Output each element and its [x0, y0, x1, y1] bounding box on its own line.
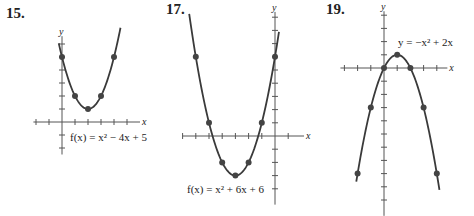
- data-point: [259, 120, 265, 126]
- data-point: [246, 159, 252, 165]
- x-axis-label: x: [305, 130, 311, 141]
- data-point: [85, 106, 91, 112]
- data-point: [407, 65, 413, 71]
- graph-15: xyf(x) = x² − 4x + 5: [33, 26, 147, 154]
- data-point: [272, 54, 278, 60]
- data-point: [381, 65, 387, 71]
- data-point: [421, 105, 427, 111]
- graph-17: xyf(x) = x² + 6x + 6: [183, 2, 311, 205]
- y-axis-label: y: [271, 2, 277, 13]
- parabola-curve: [189, 14, 279, 176]
- parabola-plots: xyf(x) = x² − 4x + 5 xyf(x) = x² + 6x + …: [0, 0, 474, 216]
- data-point: [72, 93, 78, 99]
- data-point: [434, 171, 440, 177]
- parabola-curve: [356, 55, 439, 190]
- equation-label: f(x) = x² − 4x + 5: [70, 131, 147, 144]
- data-point: [368, 105, 374, 111]
- data-point: [98, 93, 104, 99]
- equation-label: y = −x² + 2x: [398, 36, 453, 48]
- data-point: [355, 171, 361, 177]
- x-axis-label: x: [141, 116, 147, 127]
- x-axis-label: x: [448, 62, 454, 73]
- data-point: [193, 54, 199, 60]
- data-point: [206, 120, 212, 126]
- graph-19: xyy = −x² + 2x: [340, 1, 454, 216]
- y-axis-label: y: [380, 1, 386, 12]
- data-point: [232, 173, 238, 179]
- exercise-graphs: 15. 17. 19. xyf(x) = x² − 4x + 5 xyf(x) …: [0, 0, 474, 216]
- y-axis-label: y: [58, 26, 64, 37]
- data-point: [111, 54, 117, 60]
- equation-label: f(x) = x² + 6x + 6: [187, 183, 264, 196]
- data-point: [394, 52, 400, 58]
- data-point: [219, 159, 225, 165]
- data-point: [59, 54, 65, 60]
- parabola-curve: [59, 28, 121, 109]
